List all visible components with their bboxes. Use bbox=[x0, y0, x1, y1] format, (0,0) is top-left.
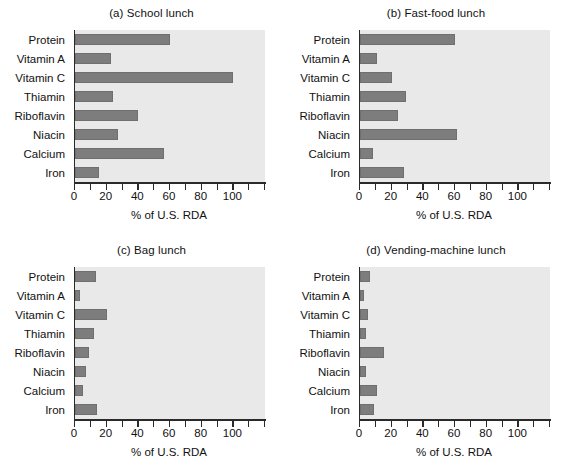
x-axis-tick bbox=[74, 184, 75, 190]
x-axis-tick-label: 80 bbox=[194, 190, 207, 202]
bar-row bbox=[75, 381, 265, 400]
panel-title: (c) Bag lunch bbox=[0, 244, 285, 256]
x-axis-tick bbox=[264, 184, 265, 190]
y-axis-label: Protein bbox=[285, 267, 355, 286]
bar bbox=[75, 167, 99, 178]
bar-row bbox=[75, 343, 265, 362]
bar-row bbox=[75, 324, 265, 343]
bar-rows bbox=[75, 30, 265, 182]
y-axis-label: Riboflavin bbox=[0, 106, 70, 125]
bar-row bbox=[360, 362, 550, 381]
bar-row bbox=[360, 305, 550, 324]
x-axis-tick bbox=[375, 184, 376, 190]
x-axis-tick bbox=[169, 421, 170, 427]
x-axis-tick bbox=[391, 184, 392, 190]
bar bbox=[75, 309, 107, 320]
y-axis-label: Vitamin A bbox=[0, 49, 70, 68]
panel-title: (d) Vending-machine lunch bbox=[285, 244, 569, 256]
figure-four-panel-bar-chart: (a) School lunchProteinVitamin AVitamin … bbox=[0, 0, 569, 474]
x-axis-tick bbox=[422, 421, 423, 427]
bar-rows bbox=[360, 267, 550, 419]
bar-row bbox=[360, 324, 550, 343]
x-axis-tick-label: 60 bbox=[163, 427, 176, 439]
x-axis-tick bbox=[185, 421, 186, 427]
x-axis-tick-labels: 020406080100 bbox=[74, 427, 264, 443]
x-axis-tick bbox=[407, 184, 408, 190]
x-axis-ticks bbox=[74, 184, 264, 190]
y-axis-label: Iron bbox=[285, 163, 355, 182]
x-axis-tick bbox=[201, 421, 202, 427]
y-axis-label: Protein bbox=[0, 30, 70, 49]
bar-row bbox=[75, 144, 265, 163]
bar-row bbox=[75, 68, 265, 87]
x-axis-tick bbox=[438, 421, 439, 427]
bar bbox=[75, 148, 164, 159]
bar bbox=[360, 290, 364, 301]
bar-row bbox=[75, 30, 265, 49]
panel-title: (b) Fast-food lunch bbox=[285, 7, 569, 19]
x-axis-tick-label: 40 bbox=[416, 190, 429, 202]
bar-row bbox=[75, 305, 265, 324]
bar bbox=[360, 53, 377, 64]
bar bbox=[360, 271, 370, 282]
y-axis-label: Vitamin C bbox=[285, 68, 355, 87]
x-axis-tick bbox=[533, 184, 534, 190]
bar-row bbox=[75, 267, 265, 286]
bar-row bbox=[360, 267, 550, 286]
x-axis-tick bbox=[517, 421, 518, 427]
y-axis-label: Thiamin bbox=[0, 324, 70, 343]
bar bbox=[75, 53, 111, 64]
y-axis-label: Vitamin C bbox=[0, 68, 70, 87]
x-axis-tick bbox=[169, 184, 170, 190]
x-axis-tick-label: 60 bbox=[163, 190, 176, 202]
x-axis-ticks bbox=[359, 184, 549, 190]
x-axis-tick-label: 100 bbox=[508, 427, 527, 439]
bar-row bbox=[360, 49, 550, 68]
x-axis-tick bbox=[248, 421, 249, 427]
x-axis-tick bbox=[106, 184, 107, 190]
x-axis-tick bbox=[375, 421, 376, 427]
y-axis-label: Niacin bbox=[285, 362, 355, 381]
x-axis-tick-label: 20 bbox=[99, 427, 112, 439]
x-axis-tick-label: 40 bbox=[131, 190, 144, 202]
plot-area bbox=[74, 30, 265, 182]
x-axis-tick bbox=[502, 184, 503, 190]
bar-row bbox=[75, 106, 265, 125]
x-axis-tick bbox=[137, 184, 138, 190]
x-axis-tick bbox=[106, 421, 107, 427]
bar bbox=[360, 34, 455, 45]
x-axis-tick-labels: 020406080100 bbox=[359, 190, 549, 206]
plot-area bbox=[359, 267, 550, 419]
x-axis-title: % of U.S. RDA bbox=[359, 209, 549, 221]
bar-row bbox=[75, 125, 265, 144]
x-axis-tick-label: 100 bbox=[508, 190, 527, 202]
bar-row bbox=[360, 163, 550, 182]
bar-row bbox=[360, 144, 550, 163]
x-axis-tick bbox=[232, 184, 233, 190]
y-axis-category-labels: ProteinVitamin AVitamin CThiaminRiboflav… bbox=[285, 30, 355, 182]
bar-rows bbox=[360, 30, 550, 182]
x-axis-tick-labels: 020406080100 bbox=[359, 427, 549, 443]
x-axis-tick bbox=[201, 184, 202, 190]
bar bbox=[360, 91, 406, 102]
x-axis-tick-label: 80 bbox=[194, 427, 207, 439]
y-axis-label: Vitamin C bbox=[285, 305, 355, 324]
x-axis-tick bbox=[232, 421, 233, 427]
x-axis-tick bbox=[549, 184, 550, 190]
bar bbox=[360, 72, 392, 83]
bar-row bbox=[360, 400, 550, 419]
y-axis-label: Iron bbox=[285, 400, 355, 419]
y-axis-label: Calcium bbox=[0, 144, 70, 163]
bar bbox=[360, 309, 368, 320]
bar bbox=[75, 91, 113, 102]
x-axis-tick-label: 40 bbox=[131, 427, 144, 439]
x-axis-tick-label: 0 bbox=[71, 427, 77, 439]
y-axis-label: Vitamin C bbox=[0, 305, 70, 324]
x-axis-tick-label: 0 bbox=[356, 427, 362, 439]
panel-a: (a) School lunchProteinVitamin AVitamin … bbox=[0, 0, 285, 237]
x-axis-tick-label: 80 bbox=[479, 190, 492, 202]
y-axis-label: Calcium bbox=[285, 144, 355, 163]
x-axis-tick bbox=[549, 421, 550, 427]
x-axis-tick bbox=[454, 421, 455, 427]
bar-row bbox=[75, 400, 265, 419]
